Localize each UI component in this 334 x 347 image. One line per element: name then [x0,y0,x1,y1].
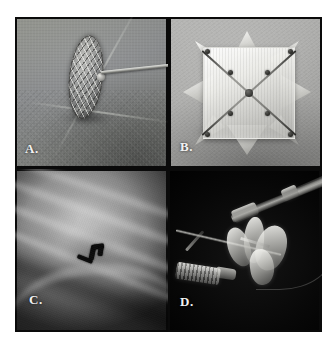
strut-node [205,132,210,137]
central-hub [245,89,253,97]
strut-node [228,70,233,75]
strut-node [265,70,270,75]
hub-connector [97,73,105,81]
fabric-patch-device [185,31,309,155]
luer-threads [175,262,221,286]
figure-panel-grid: A. [15,17,322,332]
panel-label-c: C. [29,292,43,308]
strut-node [288,132,293,137]
panel-label-d: D. [180,294,194,310]
panel-a-image [17,19,166,166]
strut-node [288,49,293,54]
panel-b: B. [168,17,322,169]
strut-node [265,111,270,116]
panel-a: A. [15,17,168,169]
panel-c: C. [15,169,168,332]
luer-lock-fitting [175,262,221,286]
strut-node [205,49,210,54]
fabric-patch-square [203,47,295,139]
catheter-shaft-distal [296,174,322,196]
strut-node [228,111,233,116]
panel-label-b: B. [180,139,193,155]
panel-label-a: A. [25,141,39,157]
panel-b-image [171,19,320,166]
panel-d: D. [168,169,322,332]
